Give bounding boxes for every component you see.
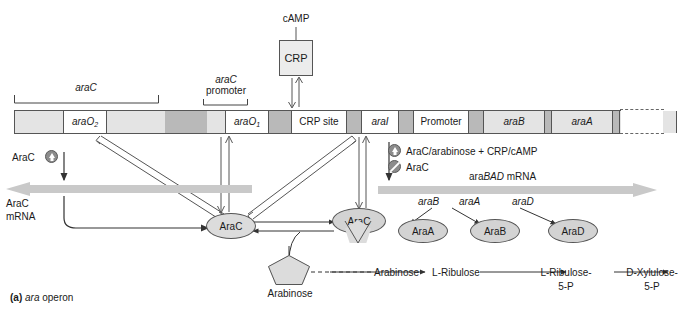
pathway-node-arabinose: Arabinose [374,267,419,278]
arac-mrna-label-line1: AraC [6,198,35,209]
arabad-mrna-transcript-arrow [378,183,657,197]
legend-repression-label: AraC [406,162,429,173]
arab-protein-oval[interactable]: AraB [470,219,520,243]
dna-segment-label-wrap: araO1 [226,116,268,128]
arab-protein-label: AraB [484,226,506,237]
arabinose-molecule[interactable] [268,255,310,289]
dna-segment-subscript: 1 [256,121,260,128]
dna-segment-label-wrap: araI [362,116,398,127]
arac-translation-arrow [64,196,208,228]
dna-segment-label: araO [234,116,256,127]
gene-label-arab: araB [418,196,439,207]
dna-segment-label: araA [571,116,592,127]
arac-to-arao2-double-arrow [96,136,224,221]
arac-arabinose-equilibrium-arrows [253,222,334,231]
dna-segment-spacer-2[interactable] [107,111,165,133]
bracket-label-arac-gene: araC [46,82,126,93]
bracket-label-arac-promoter-gene: araC [195,74,257,85]
dna-segment-araO1[interactable]: araO1 [225,111,269,133]
dna-segment-spacer-3[interactable] [165,111,207,133]
dna-segment-araO2[interactable]: araO2 [63,111,107,133]
activation-icon-left [45,150,58,163]
dna-segment-spacer-left[interactable] [15,111,63,133]
gene-label-arad: araD [512,196,534,207]
pathway-node-l-ribulose-5p-line1: L-Ribulose- [522,267,610,278]
arabad-mrna-suffix: mRNA [504,171,536,182]
figure-caption-tag: (a) [10,292,22,303]
dna-segment-label-wrap: Promoter [414,116,468,127]
dna-segment-araI[interactable]: araI [361,111,399,133]
dna-segment-spacer-7[interactable] [399,111,413,133]
araa-protein-label: AraA [412,226,434,237]
bracket-arac-promoter [204,99,248,105]
dna-bar-dash-bottom [620,133,664,134]
arac-arabinose-outline [332,208,388,244]
figure-caption-rest: operon [39,292,73,303]
legend-activation-label: AraC/arabinose + CRP/cAMP [406,146,537,157]
camp-label: cAMP [268,13,324,24]
activation-icon-legend [388,144,401,157]
arac-arabinose-complex[interactable]: AraC [332,208,388,244]
pathway-node-d-xylulose-5p-line1: D-Xylulose- [614,267,690,278]
arac-to-arao1-double-arrow [218,136,233,213]
figure-caption: (a) ara operon [10,292,73,303]
arac-mrna-transcript-arrow [6,182,252,196]
dna-segment-label: Promoter [420,116,461,127]
arabinose-pentagon-outline [268,255,310,285]
arac-arabinose-vertical-double-arrow [356,136,370,209]
dna-segment-araA[interactable]: araA [551,111,613,133]
bracket-arac-gene [15,95,159,103]
dna-segment-subscript: 2 [94,121,98,128]
pathway-node-l-ribulose-5p-line2: 5-P [522,281,610,292]
dna-segment-label: araB [503,116,524,127]
dna-segment-spacer-6[interactable] [347,111,361,133]
arac-regulator-label: AraC [12,152,35,163]
crp-label: CRP [280,52,312,64]
dna-segment-spacer-5[interactable] [269,111,291,133]
arabad-mrna-italic: BAD [483,171,504,182]
dna-bar: araO2araO1CRP sitearaIPromoteraraBaraAar… [14,110,662,134]
arabad-mrna-label: araBAD mRNA [469,171,536,182]
dna-segment-araB[interactable]: araB [483,111,545,133]
dna-bar-dash-top [620,109,664,110]
crp-protein-box[interactable]: CRP [279,40,313,76]
arac-protein-label: AraC [220,221,243,232]
dna-segment-label-wrap: araO2 [64,116,106,128]
bracket-label-arac-promoter-word: promoter [195,85,257,96]
crp-binding-double-arrow [289,77,303,108]
dna-segment-label: CRP site [299,116,338,127]
dna-segment-label-wrap: araB [484,116,544,127]
dna-segment-label-wrap: CRP site [292,116,346,127]
dna-segment-label-wrap: araA [552,116,612,127]
arabad-mrna-prefix: ara [469,171,483,182]
dna-segment-crp-site[interactable]: CRP site [291,111,347,133]
dna-bar-continuation-mask [621,110,663,134]
arac-mrna-label-line2: mRNA [6,211,35,222]
dna-segment-label: araO [72,116,94,127]
dna-segment-promoter[interactable]: Promoter [413,111,469,133]
araa-protein-oval[interactable]: AraA [398,219,448,243]
pathway-node-l-ribulose: L-Ribulose [428,267,484,278]
arad-protein-label: AraD [562,226,585,237]
dna-segment-label: araI [371,116,388,127]
arad-protein-oval[interactable]: AraD [548,219,598,243]
pathway-node-d-xylulose-5p-line2: 5-P [614,281,690,292]
arac-protein-oval[interactable]: AraC [206,213,256,239]
dna-segment-spacer-4[interactable] [207,111,225,133]
arabinose-shape-label: Arabinose [255,288,325,299]
gene-label-araa: araA [459,196,480,207]
repression-icon-legend [388,160,401,173]
figure-caption-italic: ara [25,292,39,303]
dna-segment-spacer-8[interactable] [469,111,483,133]
